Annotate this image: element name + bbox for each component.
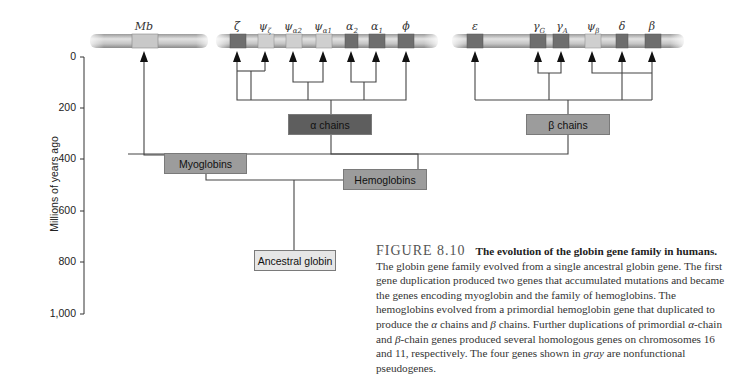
figure-caption: FIGURE 8.10The evolution of the globin g…: [376, 244, 732, 375]
gene-label-psi-alpha1: ψα1: [314, 20, 332, 35]
node-beta-chains: β chains: [526, 114, 610, 135]
gene-label-psi-alpha2: ψα2: [284, 20, 302, 35]
node-ancestral-globin: Ancestral globin: [254, 250, 336, 271]
globin-evolution-figure: Mb ζ ψζ ψα2 ψα1 α2 α1 ϕ ε γG γA ψβ δ β α…: [0, 0, 738, 376]
gene-label-gamma-g: γG: [533, 20, 545, 35]
gene-label-delta: δ: [619, 20, 626, 33]
y-axis-label: Millions of years ago: [48, 124, 60, 244]
figure-number: FIGURE 8.10: [376, 243, 466, 258]
node-alpha-chains: α chains: [288, 114, 372, 135]
gene-label-alpha2: α2: [346, 20, 358, 35]
y-axis: [80, 57, 84, 314]
gene-label-psi-zeta: ψζ: [259, 20, 271, 35]
gene-label-gamma-a: γA: [556, 20, 568, 35]
y-tick-800: 800: [36, 255, 76, 267]
y-tick-200: 200: [36, 101, 76, 113]
caption-gray: gray: [583, 347, 604, 359]
gene-label-beta: β: [649, 20, 655, 33]
caption-text: chains. Further duplications of primordi…: [496, 318, 688, 330]
node-hemoglobins: Hemoglobins: [343, 169, 427, 190]
y-tick-1000: 1,000: [36, 307, 76, 319]
gene-label-alpha1: α1: [371, 20, 383, 35]
node-myoglobins: Myoglobins: [164, 153, 247, 174]
gene-arrows: [140, 51, 656, 62]
caption-text: chains and: [437, 318, 490, 330]
myoglobin-chromosome: [84, 32, 214, 50]
gene-label-zeta: ζ: [234, 20, 240, 33]
y-tick-0: 0: [36, 50, 76, 62]
gene-label-epsilon: ε: [472, 20, 478, 33]
gene-label-mb: Mb: [135, 20, 153, 33]
figure-title: The evolution of the globin gene family …: [476, 245, 718, 257]
gene-label-psi-beta: ψβ: [587, 20, 600, 35]
gene-label-phi: ϕ: [402, 20, 410, 33]
